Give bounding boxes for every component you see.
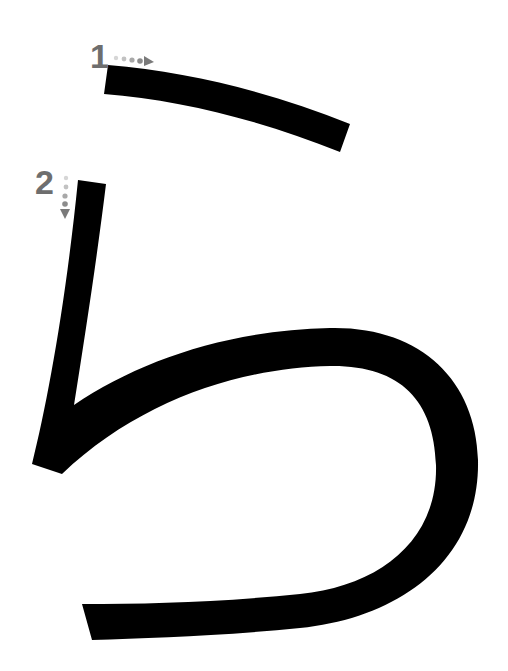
stroke-number-2: 2 xyxy=(35,163,54,201)
down-arrow-icon xyxy=(60,176,70,219)
right-arrow-icon xyxy=(114,56,154,66)
stroke-number-1: 1 xyxy=(90,37,109,75)
stroke-2 xyxy=(32,180,478,640)
stroke-1 xyxy=(104,65,350,152)
stroke-order-diagram: 1 2 xyxy=(0,0,508,671)
